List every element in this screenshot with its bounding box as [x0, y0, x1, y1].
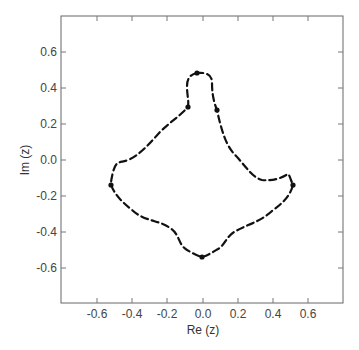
x-tick-label: -0.2 — [157, 307, 178, 321]
y-tick-label: 0.0 — [40, 153, 57, 167]
contour-curve — [111, 73, 293, 257]
y-tick-label: -0.6 — [36, 261, 57, 275]
y-tick-label: 0.6 — [40, 45, 57, 59]
x-ticks — [97, 16, 308, 303]
marker-left — [108, 182, 113, 187]
marker-top — [194, 70, 199, 75]
x-tick-label: 0.0 — [195, 307, 212, 321]
x-tick-label: -0.6 — [87, 307, 108, 321]
y-tick-label: 0.4 — [40, 81, 57, 95]
x-tick-label: 0.4 — [265, 307, 282, 321]
y-tick-label: 0.2 — [40, 117, 57, 131]
marker-bottom — [199, 254, 204, 259]
y-ticks — [61, 52, 343, 268]
marker-right — [290, 182, 295, 187]
x-axis-label: Re (z) — [187, 323, 220, 337]
x-tick-label: 0.2 — [230, 307, 247, 321]
y-tick-label: -0.4 — [36, 225, 57, 239]
marker-neck-left — [185, 104, 190, 109]
x-tick-label: -0.4 — [122, 307, 143, 321]
y-axis-label: Im (z) — [18, 145, 32, 176]
contour-markers — [108, 70, 295, 259]
x-tick-label: 0.6 — [300, 307, 317, 321]
contour-plot: -0.6 -0.4 -0.2 0.0 0.2 0.4 0.6 0.6 0.4 0… — [0, 0, 359, 350]
y-tick-label: -0.2 — [36, 189, 57, 203]
marker-neck-right — [214, 107, 219, 112]
plot-frame — [61, 16, 343, 303]
